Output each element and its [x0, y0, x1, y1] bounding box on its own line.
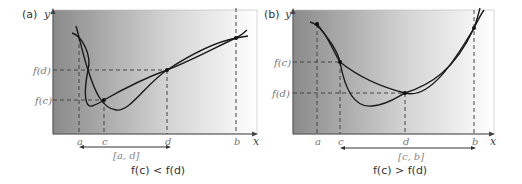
point-b-b: [472, 26, 476, 30]
x-tick-c-a: c: [102, 136, 108, 147]
caption-a: f(c) < f(d): [131, 164, 185, 177]
x-axis-label-a: x: [253, 135, 260, 148]
y-tick-fd-a: f(d): [32, 65, 51, 76]
x-tick-a-a: a: [77, 136, 83, 147]
interval-label-a: [a, d]: [113, 150, 140, 161]
plot-area-a: [53, 10, 257, 134]
panel-b-label: (b): [264, 8, 280, 21]
y-axis-label-b: y: [284, 8, 292, 21]
panel-a-label: (a): [22, 8, 37, 21]
x-tick-c-b: c: [338, 136, 344, 147]
point-c-b: [338, 60, 342, 64]
x-tick-a-b: a: [315, 136, 321, 147]
caption-b: f(c) > f(d): [373, 164, 427, 177]
x-tick-b-b: b: [472, 136, 478, 147]
interval-label-b: [c, b]: [398, 151, 424, 162]
point-d-a: [165, 68, 169, 72]
x-tick-d-b: d: [403, 136, 409, 147]
y-tick-fc-a: f(c): [34, 95, 52, 106]
point-a-b: [315, 22, 319, 26]
plot-area-b: [293, 10, 494, 134]
x-axis-label-b: x: [490, 135, 497, 148]
y-tick-fd-b: f(d): [271, 88, 290, 99]
point-c-a: [102, 98, 106, 102]
y-tick-fc-b: f(c): [273, 57, 291, 68]
panel-b: (b) y f(c) f(d) a c d b x [c, b] f(c) > …: [264, 8, 497, 177]
x-tick-b-a: b: [234, 136, 240, 147]
y-axis-label-a: y: [43, 8, 51, 21]
point-d-b: [403, 91, 407, 95]
golden-section-diagram: (a) y f(d) f(c) a c d b x [a, d] f(c) <: [0, 0, 522, 184]
panel-a: (a) y f(d) f(c) a c d b x [a, d] f(c) <: [22, 8, 260, 177]
x-tick-d-a: d: [165, 136, 171, 147]
point-b-a: [234, 36, 238, 40]
